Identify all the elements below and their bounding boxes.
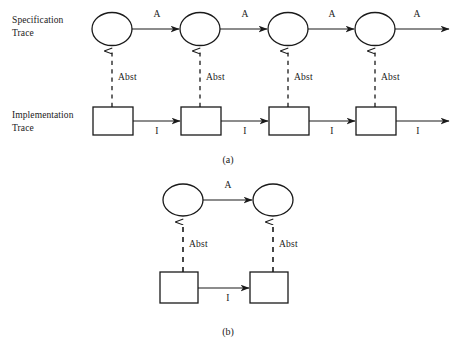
panel-a-abstraction-links (112, 51, 375, 107)
spec-state-node (253, 184, 293, 216)
spec-state-node (180, 13, 220, 46)
abstraction-label: Abst (189, 239, 208, 249)
spec-state-node (163, 184, 203, 216)
panel-a-spec-row (92, 13, 449, 46)
spec-state-node (92, 13, 132, 46)
impl-transition-label: I (151, 126, 163, 136)
impl-state-node (93, 107, 133, 135)
impl-state-node (160, 272, 198, 303)
spec-transition-label: A (238, 9, 252, 19)
spec-transition-label: A (325, 9, 339, 19)
specification-trace-label: Specification Trace (12, 14, 63, 39)
spec-state-node (268, 13, 308, 46)
impl-state-node (250, 272, 288, 303)
implementation-trace-label: Implementation Trace (12, 109, 74, 134)
figure-canvas: Specification Trace Implementation Trace… (0, 0, 469, 348)
panel-a-impl-row (93, 107, 449, 135)
figure-caption-a: (a) (208, 154, 248, 165)
abstraction-label: Abst (381, 72, 400, 82)
abstraction-label: Abst (294, 72, 313, 82)
abstraction-label: Abst (118, 72, 137, 82)
impl-transition-label: I (222, 293, 234, 303)
impl-state-node (356, 107, 396, 135)
impl-state-node (269, 107, 309, 135)
abstraction-label: Abst (279, 239, 298, 249)
impl-transition-label: I (239, 126, 251, 136)
spec-transition-label: A (150, 9, 164, 19)
impl-transition-label: I (412, 126, 424, 136)
impl-transition-label: I (326, 126, 338, 136)
spec-transition-label: A (221, 180, 235, 190)
abstraction-label: Abst (206, 72, 225, 82)
spec-state-node (355, 13, 395, 46)
impl-state-node (181, 107, 221, 135)
figure-caption-b: (b) (208, 326, 248, 337)
spec-transition-label: A (410, 9, 424, 19)
diagram-svg (0, 0, 469, 348)
